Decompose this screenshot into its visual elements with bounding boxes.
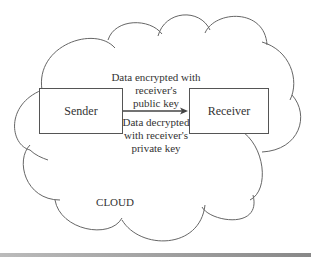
- decrypt-line-1: Data decrypted: [100, 116, 212, 129]
- encrypt-label: Data encrypted with receiver's public ke…: [100, 71, 212, 110]
- receiver-label: Receiver: [208, 104, 251, 119]
- cloud-label: CLOUD: [90, 196, 140, 209]
- sender-label: Sender: [64, 104, 97, 119]
- decrypt-line-2: with receiver's: [100, 129, 212, 142]
- encrypt-line-1: Data encrypted with: [100, 71, 212, 84]
- bottom-divider: [0, 253, 311, 257]
- encrypt-line-2: receiver's: [100, 84, 212, 97]
- decrypt-label: Data decrypted with receiver's private k…: [100, 116, 212, 155]
- encrypt-line-3: public key: [100, 97, 212, 110]
- diagram-canvas: Sender Receiver Data encrypted with rece…: [0, 0, 311, 257]
- decrypt-line-3: private key: [100, 142, 212, 155]
